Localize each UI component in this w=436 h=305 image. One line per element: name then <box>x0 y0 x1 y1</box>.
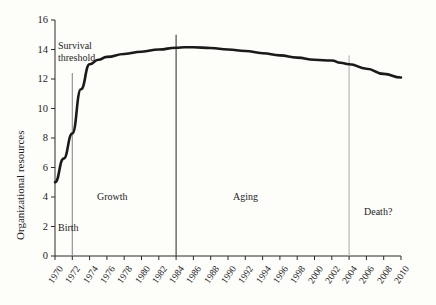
y-tick-label-12: 12 <box>26 73 48 84</box>
phase-label-death: Death? <box>364 206 392 217</box>
chart-figure: Organizational resources 0 2 4 6 8 10 12… <box>0 0 436 305</box>
y-tick-label-16: 16 <box>26 14 48 25</box>
y-tick-label-2: 2 <box>26 221 48 232</box>
y-tick-label-8: 8 <box>26 132 48 143</box>
survival-threshold-note-line2: threshold <box>58 52 95 64</box>
survival-threshold-note: Survival threshold <box>58 40 95 63</box>
phase-label-aging: Aging <box>233 191 258 202</box>
phase-label-birth: Birth <box>58 222 79 233</box>
y-axis-title: Organizational resources <box>14 131 26 240</box>
phase-label-growth: Growth <box>97 191 128 202</box>
survival-threshold-note-line1: Survival <box>58 40 95 52</box>
y-tick-label-0: 0 <box>26 250 48 261</box>
y-tick-marks <box>51 20 55 256</box>
x-tick-marks <box>55 256 401 260</box>
y-tick-label-4: 4 <box>26 191 48 202</box>
y-tick-label-10: 10 <box>26 103 48 114</box>
y-tick-label-14: 14 <box>26 44 48 55</box>
y-tick-label-6: 6 <box>26 162 48 173</box>
